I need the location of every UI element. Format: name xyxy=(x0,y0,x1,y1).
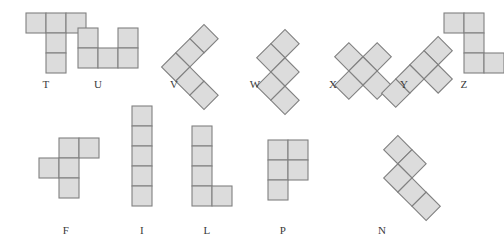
pentomino-cell xyxy=(132,126,152,146)
pentomino-cell xyxy=(46,33,66,53)
pentomino-cell xyxy=(464,53,484,73)
pentomino-label-t: T xyxy=(26,78,66,90)
pentomino-cell xyxy=(464,33,484,53)
pentomino-cell xyxy=(192,166,212,186)
pentomino-cell xyxy=(192,186,212,206)
pentomino-label-n: N xyxy=(362,224,402,236)
pentomino-cell xyxy=(132,186,152,206)
pentomino-label-u: U xyxy=(78,78,118,90)
pentomino-cell xyxy=(118,28,138,48)
pentomino-label-y: Y xyxy=(384,78,424,90)
pentomino-label-w: W xyxy=(235,78,275,90)
pentomino-cell xyxy=(46,13,66,33)
pentomino-cell xyxy=(288,160,308,180)
pentomino-label-x: X xyxy=(313,78,353,90)
pentomino-i xyxy=(132,106,152,206)
pentomino-label-l: L xyxy=(187,224,227,236)
pentomino-cell xyxy=(288,140,308,160)
pentomino-cell xyxy=(46,53,66,73)
pentomino-cell xyxy=(464,13,484,33)
pentomino-cell xyxy=(212,186,232,206)
pentomino-label-f: F xyxy=(46,224,86,236)
pentomino-t xyxy=(26,13,86,73)
pentomino-cell xyxy=(39,158,59,178)
pentomino-cell xyxy=(59,178,79,198)
pentomino-label-p: P xyxy=(263,224,303,236)
pentomino-n xyxy=(370,136,455,221)
pentomino-cell xyxy=(78,48,98,68)
pentomino-cell xyxy=(132,106,152,126)
pentomino-cell xyxy=(98,48,118,68)
pentomino-cell xyxy=(118,48,138,68)
pentomino-label-v: V xyxy=(154,78,194,90)
pentomino-cell xyxy=(444,13,464,33)
pentomino-cell xyxy=(132,166,152,186)
pentomino-l xyxy=(192,126,232,206)
pentomino-u xyxy=(78,28,138,68)
pentomino-label-i: I xyxy=(122,224,162,236)
pentomino-cell xyxy=(268,160,288,180)
pentomino-cell xyxy=(59,158,79,178)
pentomino-cell xyxy=(26,13,46,33)
pentomino-cell xyxy=(192,126,212,146)
pentomino-cell xyxy=(484,53,504,73)
pentomino-cell xyxy=(192,146,212,166)
pentomino-cell xyxy=(79,138,99,158)
pentomino-w xyxy=(243,30,328,115)
pentomino-cell xyxy=(268,140,288,160)
pentomino-cell xyxy=(132,146,152,166)
pentomino-cell xyxy=(59,138,79,158)
pentomino-label-z: Z xyxy=(444,78,484,90)
pentomino-v xyxy=(162,25,247,110)
pentomino-f xyxy=(39,138,99,198)
pentomino-cell xyxy=(78,28,98,48)
pentomino-p xyxy=(268,140,308,200)
pentomino-cell xyxy=(268,180,288,200)
pentomino-z xyxy=(444,13,504,73)
